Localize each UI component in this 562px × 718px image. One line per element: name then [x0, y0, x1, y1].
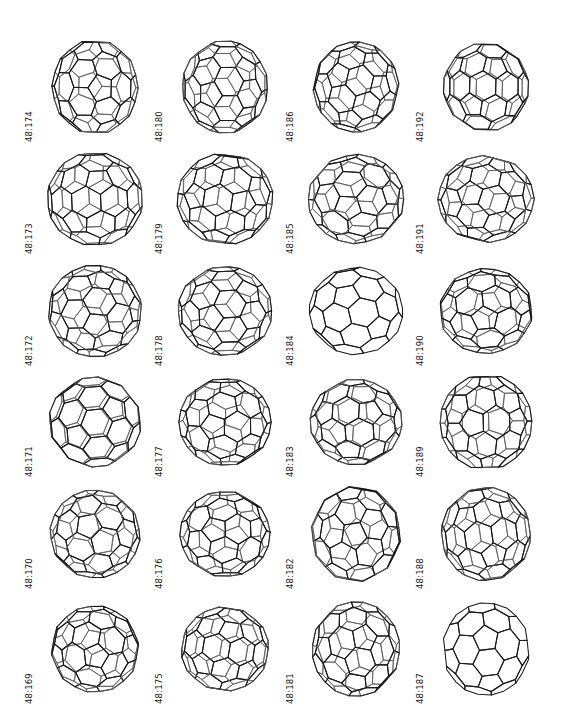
fullerene-label: 48:176 — [152, 543, 166, 589]
fullerene-cell-48-173: 48:173 — [22, 140, 152, 256]
fullerene-cell-48-189: 48:189 — [413, 363, 543, 479]
fullerene-label: 48:187 — [413, 658, 427, 704]
fullerene-cell-48-188: 48:188 — [413, 475, 543, 591]
fullerene-label: 48:186 — [283, 96, 297, 142]
fullerene-icon — [168, 140, 282, 256]
fullerene-icon — [299, 363, 413, 479]
fullerene-cell-48-175: 48:175 — [152, 590, 282, 706]
fullerene-label: 48:190 — [413, 320, 427, 366]
fullerene-label: 48:191 — [413, 208, 427, 254]
fullerene-label: 48:182 — [283, 543, 297, 589]
fullerene-icon — [429, 363, 543, 479]
fullerene-icon — [168, 590, 282, 706]
fullerene-icon — [38, 140, 152, 256]
fullerene-cell-48-186: 48:186 — [283, 28, 413, 144]
fullerene-cell-48-180: 48:180 — [152, 28, 282, 144]
fullerene-cell-48-185: 48:185 — [283, 140, 413, 256]
fullerene-icon — [429, 140, 543, 256]
fullerene-cell-48-191: 48:191 — [413, 140, 543, 256]
fullerene-label: 48:177 — [152, 431, 166, 477]
fullerene-cell-48-177: 48:177 — [152, 363, 282, 479]
fullerene-label: 48:171 — [22, 431, 36, 477]
fullerene-icon — [168, 363, 282, 479]
fullerene-cell-48-190: 48:190 — [413, 252, 543, 368]
fullerene-label: 48:178 — [152, 320, 166, 366]
fullerene-icon — [168, 28, 282, 144]
fullerene-icon — [38, 475, 152, 591]
fullerene-label: 48:175 — [152, 658, 166, 704]
fullerene-cell-48-183: 48:183 — [283, 363, 413, 479]
fullerene-cell-48-171: 48:171 — [22, 363, 152, 479]
fullerene-label: 48:170 — [22, 543, 36, 589]
fullerene-label: 48:180 — [152, 96, 166, 142]
fullerene-label: 48:189 — [413, 431, 427, 477]
fullerene-cell-48-172: 48:172 — [22, 252, 152, 368]
fullerene-label: 48:169 — [22, 658, 36, 704]
fullerene-label: 48:192 — [413, 96, 427, 142]
fullerene-cell-48-182: 48:182 — [283, 475, 413, 591]
fullerene-label: 48:185 — [283, 208, 297, 254]
fullerene-icon — [429, 252, 543, 368]
fullerene-plate: 48:16948:17048:17148:17248:17348:17448:1… — [0, 0, 562, 718]
fullerene-cell-48-181: 48:181 — [283, 590, 413, 706]
fullerene-cell-48-184: 48:184 — [283, 252, 413, 368]
fullerene-label: 48:181 — [283, 658, 297, 704]
fullerene-label: 48:173 — [22, 208, 36, 254]
fullerene-cell-48-176: 48:176 — [152, 475, 282, 591]
fullerene-cell-48-179: 48:179 — [152, 140, 282, 256]
fullerene-icon — [38, 363, 152, 479]
fullerene-icon — [299, 28, 413, 144]
fullerene-icon — [429, 28, 543, 144]
fullerene-icon — [168, 252, 282, 368]
fullerene-icon — [299, 140, 413, 256]
fullerene-icon — [38, 590, 152, 706]
fullerene-icon — [299, 475, 413, 591]
fullerene-icon — [38, 28, 152, 144]
fullerene-label: 48:174 — [22, 96, 36, 142]
fullerene-cell-48-178: 48:178 — [152, 252, 282, 368]
fullerene-label: 48:188 — [413, 543, 427, 589]
fullerene-label: 48:172 — [22, 320, 36, 366]
fullerene-icon — [429, 590, 543, 706]
fullerene-label: 48:179 — [152, 208, 166, 254]
fullerene-label: 48:183 — [283, 431, 297, 477]
fullerene-cell-48-187: 48:187 — [413, 590, 543, 706]
fullerene-icon — [38, 252, 152, 368]
fullerene-icon — [168, 475, 282, 591]
fullerene-icon — [429, 475, 543, 591]
fullerene-cell-48-169: 48:169 — [22, 590, 152, 706]
fullerene-icon — [299, 252, 413, 368]
fullerene-cell-48-192: 48:192 — [413, 28, 543, 144]
fullerene-cell-48-170: 48:170 — [22, 475, 152, 591]
fullerene-icon — [299, 590, 413, 706]
fullerene-label: 48:184 — [283, 320, 297, 366]
fullerene-cell-48-174: 48:174 — [22, 28, 152, 144]
